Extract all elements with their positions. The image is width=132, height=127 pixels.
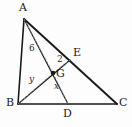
solid-edges	[18, 19, 117, 104]
segment-label-6: 6	[29, 44, 35, 53]
vertex-label-C: C	[119, 97, 127, 108]
vertex-label-A: A	[19, 2, 27, 13]
vertex-label-E: E	[73, 47, 81, 58]
point-G-dot	[51, 71, 56, 76]
segment-label-y: y	[29, 75, 34, 84]
vertex-label-G: G	[56, 68, 65, 79]
vertex-label-B: B	[6, 97, 14, 108]
segment-label-2: 2	[57, 55, 63, 64]
segment-AB	[18, 19, 24, 104]
segment-label-x: x	[54, 82, 59, 91]
vertex-label-D: D	[63, 108, 72, 119]
geometry-figure: A B C D E G 6 2 y x	[0, 0, 132, 127]
segment-AC	[24, 19, 117, 104]
